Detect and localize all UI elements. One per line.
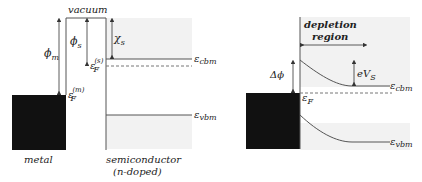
- left-panel: vacuum ϕm ϕs χs ε(s)F ε(m)F εcbm εvbm me…: [12, 4, 217, 177]
- semiconductor-label: semiconductor: [106, 154, 182, 165]
- cbm-label: εcbm: [194, 53, 217, 66]
- fermi-label-right: εF: [302, 92, 313, 106]
- fermi-m-label: ε(m)F: [68, 86, 85, 103]
- vbm-label: εvbm: [194, 109, 217, 122]
- fermi-s-label: ε(s)F: [90, 57, 104, 74]
- phi-s-label: ϕs: [70, 35, 82, 50]
- vacuum-label: vacuum: [68, 4, 108, 15]
- right-panel: depletion region Δϕ eVS εF εcbm εvbm: [246, 17, 413, 150]
- metal-block-right: [246, 93, 300, 149]
- metal-block: [12, 95, 66, 150]
- band-diagram: vacuum ϕm ϕs χs ε(s)F ε(m)F εcbm εvbm me…: [0, 0, 422, 182]
- depletion-label: depletion: [304, 19, 357, 30]
- region-label: region: [312, 31, 348, 42]
- metal-label: metal: [24, 154, 53, 165]
- delta-phi-label: Δϕ: [269, 69, 284, 80]
- semiconductor-doping-label: (n-doped): [113, 166, 162, 177]
- phi-m-label: ϕm: [44, 47, 60, 62]
- semiconductor-lower-fill: [106, 115, 192, 149]
